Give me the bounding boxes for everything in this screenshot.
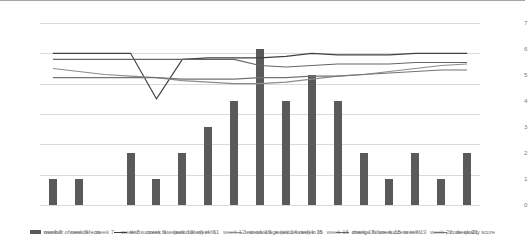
line-path bbox=[53, 59, 467, 67]
legend-item-label: number of new defects bbox=[44, 229, 101, 235]
y2-tick-label: 7 bbox=[524, 20, 532, 26]
legend-item-label: test success rate (automated) in % bbox=[130, 229, 216, 235]
legend-line-swatch-icon bbox=[336, 232, 349, 233]
chart-legend: number of new defectstest success rate (… bbox=[0, 225, 525, 239]
legend-line-swatch-icon bbox=[229, 232, 242, 233]
y2-tick-label: 6 bbox=[524, 46, 532, 52]
y2-tick-label: 4 bbox=[524, 98, 532, 104]
y2-tick-label: 0 bbox=[524, 202, 532, 208]
y2-tick-label: 5 bbox=[524, 72, 532, 78]
legend-item[interactable]: change failure success in % bbox=[336, 229, 421, 235]
y2-tick-label: 2 bbox=[524, 150, 532, 156]
legend-item[interactable]: test success rate (automated) in % bbox=[114, 229, 216, 235]
legend-item-label: change failure success in % bbox=[352, 229, 421, 235]
legend-item-label: code quality score bbox=[450, 229, 495, 235]
legend-line-swatch-icon bbox=[114, 232, 127, 233]
legend-item[interactable]: code quality score bbox=[434, 229, 495, 235]
legend-item[interactable]: number of new defects bbox=[30, 229, 101, 235]
y2-tick-label: 1 bbox=[524, 176, 532, 182]
line-path bbox=[53, 64, 467, 84]
plot-area: 0%20%40%60%80%100%120% 01234567 week 5we… bbox=[40, 23, 480, 205]
legend-item-label: test coverage (automated) in % bbox=[245, 229, 323, 235]
legend-item[interactable]: test coverage (automated) in % bbox=[229, 229, 323, 235]
gridline bbox=[40, 205, 480, 206]
legend-line-swatch-icon bbox=[434, 232, 447, 233]
line-series bbox=[40, 23, 480, 205]
line-path bbox=[53, 53, 467, 99]
legend-bar-swatch-icon bbox=[30, 230, 41, 234]
y2-tick-label: 3 bbox=[524, 124, 532, 130]
line-path bbox=[53, 70, 467, 79]
